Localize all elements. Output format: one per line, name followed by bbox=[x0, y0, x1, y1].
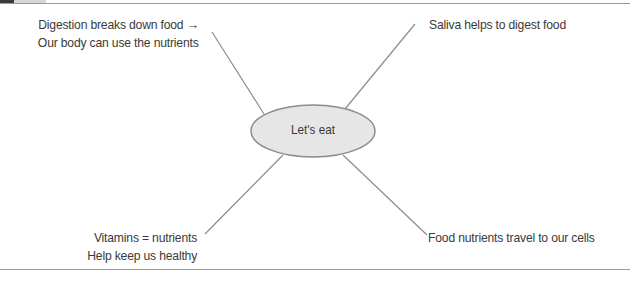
connector-top-left bbox=[212, 32, 264, 114]
branch-bottom-right-line-1: Food nutrients travel to our cells bbox=[428, 229, 595, 247]
bottom-rule bbox=[0, 269, 630, 270]
branch-top-left-line-1: Digestion breaks down food → bbox=[38, 16, 199, 34]
branch-top-left: Digestion breaks down food → Our body ca… bbox=[38, 16, 199, 52]
center-node-label: Let's eat bbox=[257, 122, 369, 137]
branch-bottom-left: Vitamins = nutrients Help keep us health… bbox=[87, 229, 197, 265]
connector-top-right bbox=[345, 24, 415, 109]
branch-top-right: Saliva helps to digest food bbox=[429, 16, 566, 34]
connector-bottom-right bbox=[343, 155, 427, 235]
branch-top-right-line-1: Saliva helps to digest food bbox=[429, 16, 566, 34]
branch-bottom-right: Food nutrients travel to our cells bbox=[428, 229, 595, 247]
branch-bottom-left-line-2: Help keep us healthy bbox=[87, 247, 197, 265]
branch-bottom-left-line-1: Vitamins = nutrients bbox=[87, 229, 197, 247]
branch-top-left-line-2: Our body can use the nutrients bbox=[38, 34, 199, 52]
connector-bottom-left bbox=[205, 155, 283, 234]
